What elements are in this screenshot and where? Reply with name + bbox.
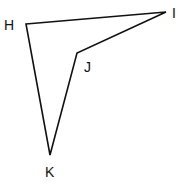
vertex-label-h: H (4, 17, 14, 33)
vertex-label-j: J (84, 59, 91, 75)
vertex-label-i: I (172, 5, 176, 21)
quadrilateral-hijk (26, 12, 166, 155)
diagram-canvas: H I J K (0, 0, 188, 184)
vertex-label-k: K (45, 164, 55, 180)
